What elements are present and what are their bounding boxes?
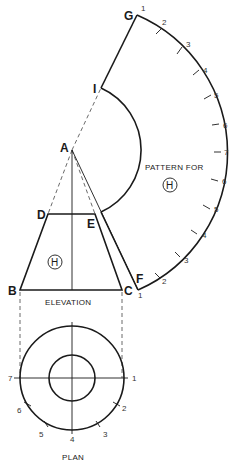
elevation-part-symbol: H (51, 257, 58, 268)
arc-num-5-bottom: 5 (214, 205, 219, 214)
vertex-c-label: C (124, 284, 133, 298)
arc-num-4-bottom: 4 (202, 231, 207, 240)
arc-num-6-bottom: 6 (222, 177, 227, 186)
pattern-tick-marks (155, 28, 221, 278)
arc-num-3-top: 3 (186, 40, 191, 49)
cone-development-diagram: 1 2 3 4 5 6 7 6 5 4 3 2 1 G I A D E F B … (0, 0, 240, 466)
pattern-inner-arc (101, 88, 141, 212)
plan-num-1: 1 (132, 374, 137, 383)
vertex-e-label: E (87, 217, 95, 231)
plan-num-6: 6 (17, 406, 22, 415)
plan-num-5: 5 (39, 430, 44, 439)
arc-num-2-bottom: 2 (162, 277, 167, 286)
construction-line-a-d (48, 150, 72, 214)
vertex-b-label: B (8, 284, 17, 298)
pattern-edge-g-i (101, 15, 137, 88)
arc-num-1-bottom: 1 (138, 291, 143, 300)
vertex-d-label: D (37, 208, 46, 222)
arc-num-2-top: 2 (162, 18, 167, 27)
pattern-outer-arc (137, 15, 228, 290)
arc-num-5-top: 5 (214, 91, 219, 100)
construction-line-a-i (72, 88, 101, 150)
construction-line-a-e (72, 150, 95, 214)
plan-num-2: 2 (122, 404, 127, 413)
plan-label: PLAN (62, 453, 84, 462)
pattern-part-symbol: H (166, 180, 173, 191)
plan-num-4: 4 (70, 435, 75, 444)
arc-num-7: 7 (224, 148, 229, 157)
plan-num-3: 3 (103, 430, 108, 439)
arc-num-3-bottom: 3 (184, 256, 189, 265)
pattern-edge-e-f (101, 212, 138, 290)
arc-num-4-top: 4 (203, 66, 208, 75)
arc-num-6-top: 6 (223, 121, 228, 130)
plan-num-7: 7 (8, 374, 13, 383)
vertex-g-label: G (124, 9, 133, 23)
vertex-i-label: I (93, 82, 96, 96)
pattern-for-label: PATTERN FOR (145, 163, 204, 172)
vertex-a-label: A (60, 141, 69, 155)
elevation-label: ELEVATION (45, 298, 91, 307)
vertex-f-label: F (136, 272, 143, 286)
arc-num-1-top: 1 (141, 4, 146, 13)
